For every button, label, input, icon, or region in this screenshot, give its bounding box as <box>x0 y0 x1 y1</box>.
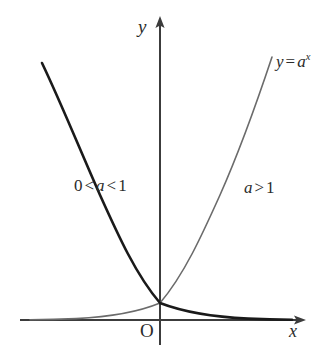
decay-second-operator: < <box>105 176 119 195</box>
growth-range-label: a>1 <box>244 179 275 196</box>
equation-exponent: x <box>306 51 311 62</box>
curve-exponential-growth <box>30 57 272 320</box>
growth-base-symbol: a <box>244 178 253 197</box>
growth-operator: > <box>253 178 267 197</box>
decay-lower-bound: 0 <box>74 176 83 195</box>
growth-value: 1 <box>266 178 275 197</box>
y-axis-label: y <box>138 17 146 36</box>
exponential-function-figure: y x O y=ax 0<a<1 a>1 <box>0 0 329 360</box>
equation-lhs: y <box>276 52 284 71</box>
origin-label: O <box>140 321 154 340</box>
equation-label: y=ax <box>276 53 310 70</box>
decay-first-operator: < <box>83 176 97 195</box>
decay-range-label: 0<a<1 <box>74 177 127 194</box>
equation-equals-sign: = <box>284 52 298 71</box>
decay-base-symbol: a <box>96 176 105 195</box>
equation-base: a <box>297 52 306 71</box>
decay-upper-bound: 1 <box>118 176 127 195</box>
x-axis-label: x <box>289 322 297 340</box>
